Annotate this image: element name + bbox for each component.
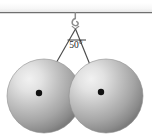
diagram-canvas: 50°: [0, 0, 152, 139]
right-sphere-center-dot: [98, 89, 104, 95]
angle-label: 50°: [69, 40, 83, 50]
left-sphere-center-dot: [36, 90, 42, 96]
ceiling-band: [0, 3, 152, 13]
right-sphere: [69, 59, 143, 133]
physics-diagram-two-hanging-spheres: 50°: [0, 0, 152, 139]
